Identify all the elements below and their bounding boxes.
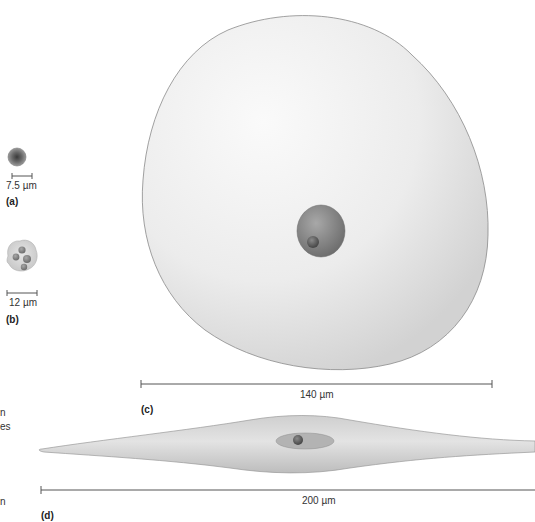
- scale-bar-a: [12, 173, 32, 179]
- scale-label-d: 200 µm: [302, 495, 336, 506]
- cell-c: [142, 16, 488, 370]
- panel-label-b: (b): [6, 314, 19, 325]
- scale-bar-c: [141, 380, 492, 388]
- cropped-text-fragment: n: [0, 407, 6, 418]
- cropped-text-fragment: es: [0, 421, 11, 432]
- cell-d: [39, 416, 535, 473]
- scale-label-c: 140 µm: [300, 389, 334, 400]
- scale-label-b: 12 µm: [9, 297, 37, 308]
- scale-bar-b: [7, 290, 37, 296]
- scale-label-a: 7.5 µm: [6, 180, 37, 191]
- panel-label-c: (c): [141, 404, 153, 415]
- cell-b: [7, 240, 37, 271]
- cell-size-illustration: [0, 0, 535, 522]
- cell-a: [8, 148, 26, 166]
- cropped-text-fragment: n: [0, 496, 6, 507]
- panel-label-a: (a): [6, 196, 18, 207]
- scale-bar-d: [41, 486, 535, 494]
- panel-label-d: (d): [41, 510, 54, 521]
